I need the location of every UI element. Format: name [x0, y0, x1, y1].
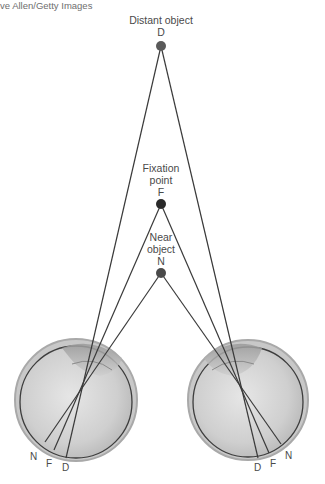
fixation-point-label: Fixation point F — [131, 162, 191, 198]
fixation-label-line2: point — [131, 174, 191, 186]
distant-object-label: Distant object D — [111, 14, 211, 38]
right-retina-label-f: F — [270, 458, 276, 469]
distant-object-text: Distant object — [111, 14, 211, 26]
near-label-line1: Near — [131, 231, 191, 243]
distant-object-dot — [156, 41, 166, 51]
left-retina-label-n: N — [30, 451, 37, 462]
distant-object-letter: D — [111, 26, 211, 38]
fixation-label-line1: Fixation — [131, 162, 191, 174]
right-retina-label-d: D — [254, 462, 261, 473]
right-eye — [188, 340, 308, 460]
right-retina-label-n: N — [285, 450, 292, 461]
fixation-point-dot — [156, 199, 166, 209]
fixation-letter: F — [131, 186, 191, 198]
left-retina-label-d: D — [62, 462, 69, 473]
near-object-label: Near object N — [131, 231, 191, 267]
near-letter: N — [131, 255, 191, 267]
near-label-line2: object — [131, 243, 191, 255]
left-retina-label-f: F — [46, 458, 52, 469]
near-object-dot — [156, 268, 166, 278]
